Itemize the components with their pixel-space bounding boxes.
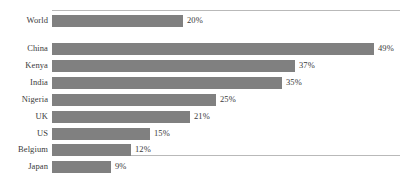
bar-row: Japan 9% [0,160,410,173]
bar [52,94,216,106]
value-label: 49% [378,42,394,55]
category-label: Nigeria [0,93,48,106]
bar [52,15,183,27]
bar-chart: World 20% China 49% Kenya 37% India 35% … [0,0,410,173]
bar-row: World 20% [0,14,410,27]
category-label: World [0,14,48,27]
bar-row: US 15% [0,127,410,140]
bar-row: Belgium 12% [0,143,410,156]
value-label: 12% [135,143,151,156]
value-label: 9% [115,160,127,173]
bar [52,43,374,55]
value-label: 37% [299,59,315,72]
category-label: US [0,127,48,140]
bar-row: Kenya 37% [0,59,410,72]
value-label: 20% [187,14,203,27]
bar [52,111,190,123]
category-label: Japan [0,160,48,173]
category-label: China [0,42,48,55]
bar-rows-container: World 20% China 49% Kenya 37% India 35% … [0,0,410,173]
category-label: India [0,76,48,89]
value-label: 25% [220,93,236,106]
bar-row: China 49% [0,42,410,55]
category-label: Belgium [0,143,48,156]
bar [52,77,282,89]
bar [52,60,295,72]
category-label: UK [0,110,48,123]
bar [52,128,150,140]
bar [52,144,131,156]
bar-row: India 35% [0,76,410,89]
value-label: 21% [194,110,210,123]
bar-row: UK 21% [0,110,410,123]
category-label: Kenya [0,59,48,72]
bar-row: Nigeria 25% [0,93,410,106]
bar [52,161,111,173]
value-label: 15% [154,127,170,140]
value-label: 35% [286,76,302,89]
